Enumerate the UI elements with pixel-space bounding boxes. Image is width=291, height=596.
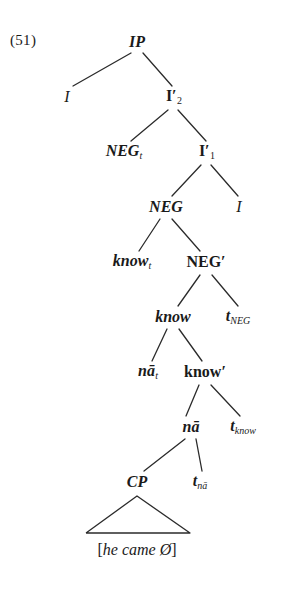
branch-na-to-cp [144, 439, 185, 471]
tree-node-t-know: tknow [230, 418, 256, 436]
tree-node-na: nā [183, 419, 200, 435]
branch-knowbar-to-t-know [211, 385, 240, 416]
node-label-know-t: know [113, 253, 149, 269]
tree-node-i-spec: I [64, 89, 69, 105]
node-subscript-t-neg: NEG [230, 315, 250, 326]
tree-node-know-t: knowt [113, 253, 152, 271]
tree-node-cp: CP [127, 474, 147, 490]
branch-na-to-t-na [196, 439, 202, 471]
node-subscript-ibar2: 2 [177, 95, 182, 106]
node-subscript-neg-t: t [140, 150, 143, 161]
branch-ibar2-to-ibar1 [178, 110, 206, 141]
tree-node-negbar: NEG′ [186, 254, 225, 270]
terminal-text: he came Ø [103, 541, 171, 558]
branch-ibar1-to-neg [172, 165, 201, 196]
tree-node-ip: IP [129, 34, 145, 50]
node-label-cp: CP [127, 474, 147, 490]
branch-neg-to-negbar [172, 219, 200, 251]
node-label-neg-t: NEG [106, 143, 140, 159]
branch-know-to-na-t [152, 329, 167, 361]
node-subscript-t-na: nā [197, 480, 207, 491]
branch-ibar2-to-neg-t [131, 110, 168, 141]
branch-negbar-to-know [178, 275, 200, 306]
node-label-negbar: NEG′ [186, 254, 225, 270]
branch-ibar1-to-i-head [211, 165, 238, 196]
tree-node-knowbar: know′ [184, 364, 226, 380]
node-subscript-know-t: t [148, 260, 151, 271]
tree-branch-layer [0, 0, 291, 596]
example-number: (51) [10, 32, 36, 49]
branch-negbar-to-t-neg [212, 275, 238, 306]
node-label-neg: NEG [149, 199, 183, 215]
node-label-na: nā [183, 419, 200, 435]
node-label-know: know [155, 309, 191, 325]
node-label-t-know: t [230, 418, 234, 434]
constituent-triangle [86, 496, 190, 533]
branch-ip-to-i-spec [73, 53, 131, 86]
node-label-t-neg: t [226, 308, 230, 324]
tree-node-know: know [155, 309, 191, 325]
tree-node-neg: NEG [149, 199, 183, 215]
branch-know-to-knowbar [179, 329, 202, 361]
node-label-i-head: I [236, 199, 241, 215]
node-label-na-t: nā [138, 363, 155, 379]
node-label-i-spec: I [64, 89, 69, 105]
node-subscript-ibar1: 1 [210, 150, 215, 161]
tree-node-ibar1: I′1 [199, 143, 215, 161]
syntax-tree-figure: (51) IPII′2NEGtI′1NEGIknowtNEG′knowtNEGn… [0, 0, 291, 596]
branch-neg-to-know-t [139, 219, 160, 251]
tree-node-t-neg: tNEG [226, 308, 251, 326]
node-label-t-na: t [193, 473, 197, 489]
node-label-ibar2: I′ [166, 88, 177, 104]
tree-node-t-na: tnā [193, 473, 208, 491]
tree-node-ibar2: I′2 [166, 88, 182, 106]
branch-ip-to-ibar2 [143, 53, 172, 86]
node-label-ibar1: I′ [199, 143, 210, 159]
node-label-ip: IP [129, 34, 145, 50]
tree-node-i-head: I [236, 199, 241, 215]
node-subscript-na-t: t [155, 370, 158, 381]
tree-node-na-t: nāt [138, 363, 158, 381]
node-label-knowbar: know′ [184, 364, 226, 380]
close-bracket: ] [171, 541, 176, 558]
node-subscript-t-know: know [235, 425, 256, 436]
terminal-string: [he came Ø] [97, 542, 176, 558]
tree-node-neg-t: NEGt [106, 143, 143, 161]
branch-knowbar-to-na [186, 385, 199, 416]
